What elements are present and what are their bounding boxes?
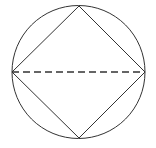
- inscribed-square-diagram: [0, 0, 156, 148]
